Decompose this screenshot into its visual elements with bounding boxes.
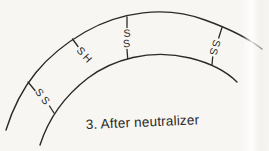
bond-middle-lower-segment — [127, 50, 128, 59]
bond-left-lower-segment — [50, 106, 55, 113]
bond-right-lower-segment — [212, 57, 213, 65]
bond-upper-left: S H — [73, 39, 95, 65]
bond-left: S S — [28, 82, 54, 113]
figure-caption: 3. After neutralizer — [85, 112, 199, 132]
bond-middle-letter-2: S — [122, 37, 130, 50]
diagram-page: S S S H S S S S 3. After neutralizer — [0, 0, 269, 151]
hair-strand-diagram: S S S H S S S S 3. After neutralizer — [0, 0, 269, 151]
bond-right-upper-segment — [219, 28, 222, 39]
bond-left-upper-segment — [28, 82, 35, 91]
bond-right: S S — [208, 28, 224, 66]
bond-upper-left-segment — [73, 39, 79, 47]
bond-right-letter-2: S — [208, 47, 221, 56]
inner-strand-curve — [40, 54, 237, 145]
bond-middle: S S — [122, 17, 131, 59]
scanned-page: { "figure": { "caption": "3. After neutr… — [0, 0, 269, 151]
